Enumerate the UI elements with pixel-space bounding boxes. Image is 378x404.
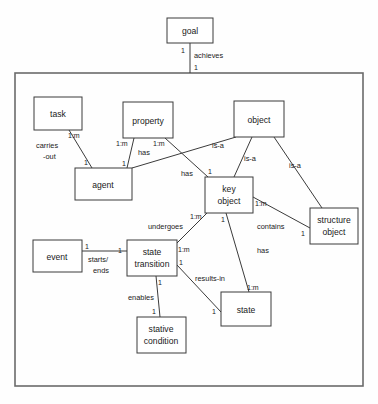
rel-label-contains: contains xyxy=(257,222,285,231)
entity-stative-condition-label-line1: stative xyxy=(149,324,174,334)
rel-label-has-property-agent: has xyxy=(138,148,150,157)
entity-property-label: property xyxy=(132,116,164,126)
cardinality-property-key-object-side: 1:m xyxy=(153,140,165,147)
cardinality-state-transition-event-side: 1 xyxy=(118,247,122,254)
entity-state-transition-label-line1: state xyxy=(143,247,162,257)
rel-label-is-a-object-agent: is-a xyxy=(212,141,225,150)
entity-object-label: object xyxy=(248,115,272,125)
cardinality-frame-side: 1 xyxy=(194,64,198,71)
entity-stative-condition-label-line2: condition xyxy=(144,336,179,346)
rel-label-has-key-object-state: has xyxy=(257,246,269,255)
entity-property[interactable]: property xyxy=(123,102,173,138)
rel-label-has-property-key-object: has xyxy=(181,169,193,178)
cardinality-agent-property-side: 1 xyxy=(122,160,126,167)
cardinality-structure-object-contains-side: 1 xyxy=(301,230,305,237)
rel-label-is-a-object-key-object: is-a xyxy=(244,154,257,163)
entity-key-object-box[interactable] xyxy=(205,177,253,213)
cardinality-state-transition-undergoes-side: 1:m xyxy=(178,246,190,253)
entity-structure-object-label-line2: object xyxy=(323,227,347,237)
cardinality-state-transition-results-side: 1 xyxy=(179,259,183,266)
rel-label-results-in: results-in xyxy=(195,274,225,283)
entity-object[interactable]: object xyxy=(234,101,284,137)
cardinality-stative-condition-side: 1 xyxy=(152,308,156,315)
entity-event-label: event xyxy=(46,252,68,262)
entity-event[interactable]: event xyxy=(33,240,82,272)
rel-label-enables: enables xyxy=(128,293,154,302)
entity-state-transition[interactable]: state transition xyxy=(127,240,177,276)
rel-label-achieves: achieves xyxy=(194,51,223,60)
entity-stative-condition-box[interactable] xyxy=(137,317,186,353)
entity-agent[interactable]: agent xyxy=(75,168,132,200)
cardinality-state-results-side: 1 xyxy=(212,308,216,315)
connector-state-transition-results-in-state xyxy=(177,265,221,312)
entity-goal-label: goal xyxy=(182,26,198,36)
diagram-svg: goal task property object agent key obje… xyxy=(0,0,378,404)
rel-label-carries-out-line1: carries xyxy=(36,141,58,150)
connector-object-is-a-structure-object xyxy=(274,137,322,208)
diagram-canvas: goal task property object agent key obje… xyxy=(0,0,378,404)
cardinality-key-object-property-side: 1 xyxy=(208,168,212,175)
cardinality-event-side: 1 xyxy=(85,243,89,250)
connector-property-has-agent xyxy=(127,138,134,168)
cardinality-task-side: 1:m xyxy=(68,132,80,139)
entity-state[interactable]: state xyxy=(221,292,271,326)
rel-label-starts-ends-line2: ends xyxy=(93,266,109,275)
connector-key-object-has-state xyxy=(226,213,249,292)
cardinality-property-agent-side: 1:m xyxy=(116,140,128,147)
entity-goal[interactable]: goal xyxy=(167,18,213,43)
rel-label-carries-out-line2: -out xyxy=(43,152,56,161)
entity-task-label: task xyxy=(50,109,66,119)
cardinality-key-object-contains-side: 1:m xyxy=(255,200,267,207)
entity-agent-label: agent xyxy=(92,180,114,190)
cardinality-goal-side: 1 xyxy=(181,47,185,54)
entity-structure-object-label-line1: structure xyxy=(317,215,351,225)
entity-task[interactable]: task xyxy=(34,97,82,130)
cardinality-state-transition-enables-side: 1 xyxy=(158,279,162,286)
entity-state-transition-label-line2: transition xyxy=(135,259,170,269)
rel-label-starts-ends-line1: starts/ xyxy=(88,255,109,264)
entity-key-object[interactable]: key object xyxy=(205,177,253,213)
rel-label-is-a-object-structure-object: is-a xyxy=(289,161,302,170)
rel-label-undergoes: undergoes xyxy=(148,222,183,231)
entity-stative-condition[interactable]: stative condition xyxy=(137,317,186,353)
entity-structure-object-box[interactable] xyxy=(310,208,358,244)
entity-structure-object[interactable]: structure object xyxy=(310,208,358,244)
cardinality-agent-task-side: 1 xyxy=(84,159,88,166)
cardinality-key-object-undergoes-side: 1:m xyxy=(190,213,202,220)
cardinality-state-has-side: 1:m xyxy=(247,284,259,291)
cardinality-key-object-has-side: 1 xyxy=(221,216,225,223)
entity-state-transition-box[interactable] xyxy=(127,240,177,276)
entity-key-object-label-line2: object xyxy=(218,196,242,206)
entity-state-label: state xyxy=(237,305,256,315)
entity-key-object-label-line1: key xyxy=(222,184,236,194)
